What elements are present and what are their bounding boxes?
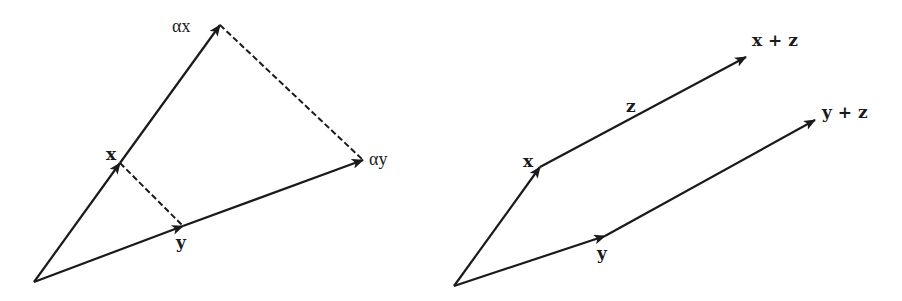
label-y: y (175, 232, 187, 252)
vector-x-arrow (454, 167, 540, 286)
label-alpha-x: αx (172, 16, 190, 36)
label-y: y (596, 243, 608, 263)
vector-y-plus-z-arrow (605, 120, 815, 236)
vector-addition-panel: x z x + z y y + z (454, 30, 868, 286)
dashed-alphax-alphay-line (220, 25, 363, 160)
label-x: x (523, 151, 534, 171)
vector-y-arrow (454, 236, 605, 286)
label-y-plus-z: y + z (821, 102, 868, 122)
scalar-multiplication-panel: x αx y αy (34, 16, 387, 282)
label-z: z (626, 96, 636, 116)
label-alpha-y: αy (369, 149, 387, 169)
label-x: x (106, 144, 117, 164)
dashed-x-y-line (120, 163, 183, 226)
vector-alpha-x-arrow (120, 25, 220, 163)
label-x-plus-z: x + z (752, 30, 798, 50)
vector-alpha-y-arrow (183, 160, 363, 226)
vector-x-arrow (34, 163, 120, 282)
vector-z-arrow (540, 57, 746, 167)
vector-y-arrow (34, 226, 183, 282)
vector-diagram: x αx y αy x z x + z y y + z (0, 0, 902, 301)
